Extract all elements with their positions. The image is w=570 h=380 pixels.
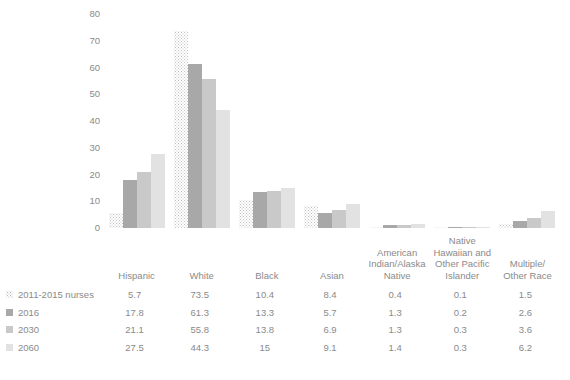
bar-2011-2015-nurses-6[interactable]	[434, 227, 448, 228]
table-cell: 44.3	[167, 339, 232, 356]
bar-2030-1[interactable]	[137, 172, 151, 228]
legend-swatch-icon	[6, 344, 13, 351]
bar-2011-2015-nurses-1[interactable]	[109, 213, 123, 228]
legend-item-2016[interactable]: 2016	[6, 304, 102, 321]
legend-swatch-icon	[6, 309, 13, 316]
bar-group-black	[234, 14, 299, 228]
table-cell: 6.9	[297, 321, 362, 338]
bar-2016-6[interactable]	[448, 227, 462, 228]
bar-2011-2015-nurses-7[interactable]	[499, 224, 513, 228]
table-cell: 13.3	[232, 304, 297, 321]
legend-item-2030[interactable]: 2030	[6, 321, 102, 338]
y-axis-tick-50: 50	[74, 89, 100, 99]
bar-2060-4[interactable]	[346, 204, 360, 228]
y-axis-tick-10: 10	[74, 196, 100, 206]
legend-label: 2030	[18, 324, 39, 335]
table-cell: 27.5	[102, 339, 167, 356]
table-cell: 0.1	[428, 286, 493, 303]
category-label-line: Other Race	[493, 270, 562, 282]
y-axis-tick-40: 40	[74, 116, 100, 126]
y-axis-tick-80: 80	[74, 9, 100, 19]
bar-2030-6[interactable]	[462, 227, 476, 228]
bar-group-white	[169, 14, 234, 228]
bar-2016-4[interactable]	[318, 213, 332, 228]
table-cell: 5.7	[102, 286, 167, 303]
category-label-line: Black	[232, 270, 301, 282]
bar-group-asian	[299, 14, 364, 228]
y-axis-tick-70: 70	[74, 36, 100, 46]
table-cell: 73.5	[167, 286, 232, 303]
table-cell: 1.4	[363, 339, 428, 356]
bar-2060-1[interactable]	[151, 154, 165, 228]
table-cell: 0.4	[363, 286, 428, 303]
table-cell: 0.2	[428, 304, 493, 321]
grouped-bar-chart: 01020304050607080 HispanicWhiteBlackAsia…	[0, 0, 570, 380]
bar-2030-4[interactable]	[332, 210, 346, 228]
plot-area	[104, 14, 560, 228]
bar-2030-7[interactable]	[527, 218, 541, 228]
table-cell: 10.4	[232, 286, 297, 303]
table-cell: 9.1	[297, 339, 362, 356]
table-cell: 1.5	[493, 286, 558, 303]
y-axis-tick-0: 0	[74, 223, 100, 233]
category-label-line: Native	[428, 235, 497, 247]
bar-group-native-hawaiian-and-other-pacific-islander	[430, 14, 495, 228]
table-row: 201617.861.313.35.71.30.22.6	[0, 304, 570, 321]
bar-2016-2[interactable]	[188, 64, 202, 228]
bar-2011-2015-nurses-5[interactable]	[369, 227, 383, 228]
table-cell: 6.2	[493, 339, 558, 356]
bar-group-american-indian-alaska-native	[365, 14, 430, 228]
category-label-line: Asian	[297, 270, 366, 282]
legend-item-2011-2015-nurses[interactable]: 2011-2015 nurses	[6, 286, 102, 303]
category-label-multiple-other-race: Multiple/Other Race	[493, 258, 562, 281]
bar-2060-5[interactable]	[411, 224, 425, 228]
category-label-line: American	[363, 247, 432, 259]
y-axis: 01020304050607080	[74, 0, 100, 232]
y-axis-tick-30: 30	[74, 143, 100, 153]
table-cell: 2.6	[493, 304, 558, 321]
bar-2016-3[interactable]	[253, 192, 267, 228]
bar-2060-2[interactable]	[216, 110, 230, 229]
category-label-native-hawaiian-and-other-pacific-islander: NativeHawaiian andOther PacificIslander	[428, 235, 497, 281]
category-label-asian: Asian	[297, 270, 366, 282]
category-label-line: Multiple/	[493, 258, 562, 270]
legend-label: 2016	[18, 307, 39, 318]
bar-2030-3[interactable]	[267, 191, 281, 228]
table-row: 203021.155.813.86.91.30.33.6	[0, 321, 570, 338]
legend-item-2060[interactable]: 2060	[6, 339, 102, 356]
bar-2030-5[interactable]	[397, 225, 411, 228]
table-cell: 1.3	[363, 304, 428, 321]
legend-swatch-icon	[6, 291, 13, 298]
category-label-line: White	[167, 270, 236, 282]
bar-2016-7[interactable]	[513, 221, 527, 228]
y-axis-tick-60: 60	[74, 63, 100, 73]
data-table: 2011-2015 nurses5.773.510.48.40.40.11.52…	[0, 286, 570, 372]
bar-2030-2[interactable]	[202, 79, 216, 228]
category-label-line: Other Pacific	[428, 258, 497, 270]
bar-2060-7[interactable]	[541, 211, 555, 228]
table-cell: 61.3	[167, 304, 232, 321]
bar-2060-3[interactable]	[281, 188, 295, 228]
category-label-american-indian-alaska-native: AmericanIndian/AlaskaNative	[363, 247, 432, 282]
table-row: 2011-2015 nurses5.773.510.48.40.40.11.5	[0, 286, 570, 303]
bar-2016-5[interactable]	[383, 225, 397, 228]
bar-group-multiple-other-race	[495, 14, 560, 228]
category-axis-labels: HispanicWhiteBlackAsianAmericanIndian/Al…	[104, 236, 560, 282]
category-label-line: Islander	[428, 270, 497, 282]
table-cell: 8.4	[297, 286, 362, 303]
bar-2011-2015-nurses-4[interactable]	[304, 206, 318, 228]
table-cell: 15	[232, 339, 297, 356]
legend-label: 2060	[18, 342, 39, 353]
table-cell: 21.1	[102, 321, 167, 338]
category-label-line: Indian/Alaska	[363, 258, 432, 270]
category-label-black: Black	[232, 270, 301, 282]
bar-2011-2015-nurses-2[interactable]	[174, 31, 188, 228]
table-cell: 13.8	[232, 321, 297, 338]
bar-2011-2015-nurses-3[interactable]	[239, 200, 253, 228]
table-cell: 5.7	[297, 304, 362, 321]
y-axis-tick-20: 20	[74, 170, 100, 180]
bar-2060-6[interactable]	[476, 227, 490, 228]
table-cell: 3.6	[493, 321, 558, 338]
bar-2016-1[interactable]	[123, 180, 137, 228]
category-label-line: Native	[363, 270, 432, 282]
